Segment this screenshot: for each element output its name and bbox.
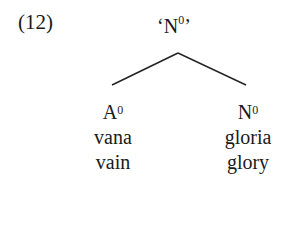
right-branch [178,53,246,85]
right-daughter-node: N0 gloria glory [221,100,275,175]
left-bar-level: 0 [117,103,123,117]
left-word: vana [88,125,138,150]
left-gloss: vain [88,150,138,175]
left-category: A [103,101,117,123]
right-category-label: N0 [221,100,275,125]
right-bar-level: 0 [252,103,258,117]
left-daughter-node: A0 vana vain [88,100,138,175]
right-word: gloria [221,125,275,150]
left-category-label: A0 [88,100,138,125]
left-branch [112,53,178,85]
right-gloss: glory [221,150,275,175]
right-category: N [238,101,252,123]
